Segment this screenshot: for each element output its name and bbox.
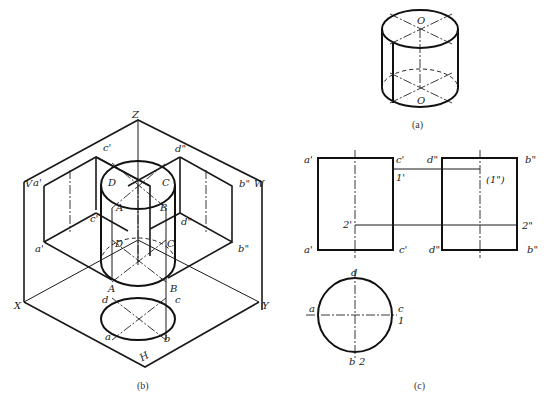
label-d-double-mid: d": [181, 216, 192, 227]
label-c-h: c: [175, 294, 181, 305]
label-B-top: B: [159, 202, 167, 213]
label-side-d-top: d": [427, 154, 438, 165]
label-x-axis: X: [13, 300, 22, 311]
caption-c: (c): [414, 380, 425, 392]
label-o-bottom: O: [417, 95, 425, 106]
projection-drawing: O O (a): [0, 0, 549, 405]
label-side-2: 2": [521, 220, 533, 231]
view-c-orthographic: a' c' a' c' 1' 2' d" b" d" b" (1") 2" a …: [304, 150, 538, 392]
view-a-cylinder: O O (a): [382, 10, 458, 131]
label-top-1: 1: [398, 315, 404, 326]
front-view-rect: [318, 158, 393, 250]
label-d-double-top: d": [175, 143, 186, 154]
label-front-c-top: c': [396, 154, 404, 165]
label-top-c: c: [398, 303, 404, 314]
label-h-plane: H: [137, 349, 151, 364]
label-front-1: 1': [396, 172, 405, 183]
label-a-prime-bottom: a': [35, 243, 44, 254]
v-projection-top: [44, 157, 150, 256]
label-b-h: b: [164, 333, 170, 344]
label-side-b-bottom: b": [527, 244, 538, 255]
caption-a: (a): [412, 119, 423, 131]
label-C-top: C: [162, 177, 170, 188]
label-B-bottom: B: [169, 283, 177, 294]
caption-b: (b): [137, 380, 149, 392]
plane-outline-top: [24, 120, 262, 310]
label-side-b-top: b": [525, 154, 536, 165]
label-C-bottom: C: [167, 238, 175, 249]
label-front-c-bottom: c': [399, 244, 407, 255]
label-a-h: a: [105, 331, 111, 342]
h-diag-2: [112, 298, 166, 340]
label-front-2: 2': [342, 219, 352, 230]
label-side-d-bottom: d": [429, 244, 440, 255]
label-top-a: a: [309, 303, 315, 314]
w-projection-outline: [180, 157, 232, 242]
label-b-double-top: b": [239, 178, 250, 189]
label-D-top: D: [107, 177, 116, 188]
label-top-2: 2: [358, 356, 365, 367]
label-b-double-bottom: b": [238, 243, 249, 254]
label-z-axis: Z: [131, 109, 140, 120]
label-top-b: b: [349, 356, 355, 367]
label-front-a-bottom: a': [304, 244, 313, 255]
label-o-top: O: [417, 15, 425, 26]
label-c-prime-top: c': [103, 142, 111, 153]
view-b-projection-box: Z X Y V W H a' c' a' c' d" b" d" b" D C …: [13, 109, 270, 392]
label-d-h: d: [102, 294, 108, 305]
label-a-prime-top: a': [33, 177, 42, 188]
label-top-d: d: [351, 267, 357, 278]
label-D-bottom: D: [114, 238, 123, 249]
label-A-bottom: A: [107, 283, 115, 294]
label-w-plane: W: [254, 178, 265, 189]
label-front-a-top: a': [304, 154, 313, 165]
side-view-rect: [442, 158, 517, 250]
label-y-axis: Y: [262, 300, 270, 311]
label-c-prime-mid: c': [90, 213, 98, 224]
label-side-1: (1"): [486, 174, 505, 185]
label-A-top: A: [115, 202, 123, 213]
